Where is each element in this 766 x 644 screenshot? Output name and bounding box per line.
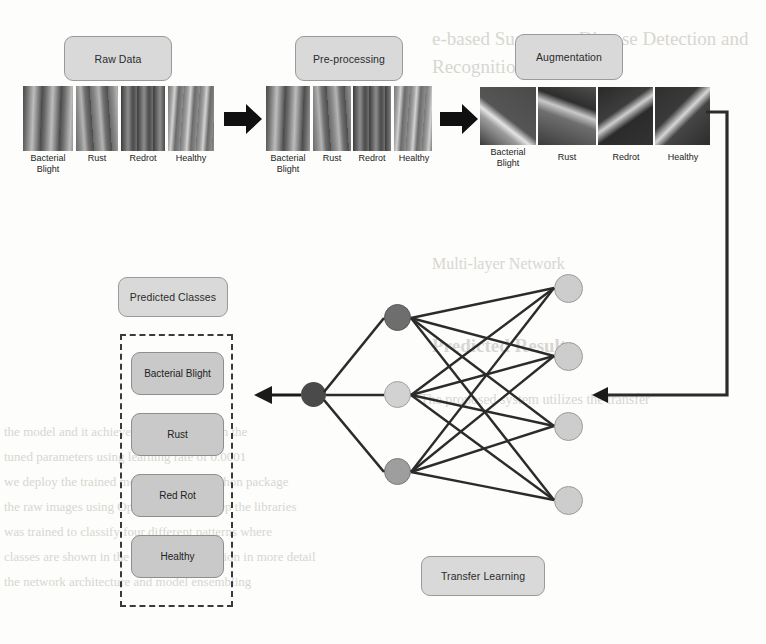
arrow-raw-to-preprocessing: [224, 104, 262, 134]
connector-augmentation-to-network: [592, 112, 727, 403]
arrow-network-to-predicted-classes: [254, 386, 301, 404]
network-edges-output: [324, 318, 384, 472]
diagram-connectors: [0, 0, 766, 644]
network-edges: [411, 288, 554, 500]
arrow-preprocessing-to-augmentation: [440, 104, 478, 134]
